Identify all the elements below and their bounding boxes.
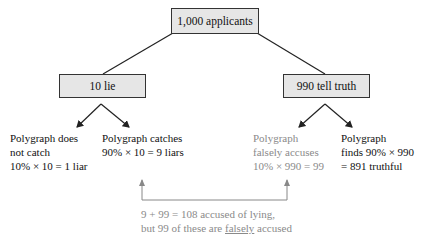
summary-prefix: but 99 of these are [141,222,225,234]
outcome-finds-truthful: Polygraph finds 90% × 990 = 891 truthful [341,131,414,173]
outcome-line: falsely accuses [253,145,324,159]
outcome-catches: Polygraph catches 90% × 10 = 9 liars [102,131,184,159]
summary-line-1: 9 + 99 = 108 accused of lying, [141,207,292,221]
arrow-falsely-accuses [299,104,325,127]
outcome-line: 10% × 990 = 99 [253,159,324,173]
root-node-box: 1,000 applicants [171,8,259,34]
root-to-left-line [103,33,173,74]
arrow-finds-truthful [325,104,352,127]
root-node-label: 1,000 applicants [177,15,252,27]
summary-suffix: accused [254,222,292,234]
outcome-not-catch: Polygraph does not catch 10% × 10 = 1 li… [10,131,87,173]
root-to-right-line [257,33,325,74]
summary-emphasis: falsely [225,222,254,234]
outcome-line: Polygraph does [10,131,87,145]
connector-lines [0,0,421,241]
outcome-line: finds 90% × 990 [341,145,414,159]
right-branch-label: 990 tell truth [297,80,356,92]
left-branch-box: 10 lie [59,74,146,98]
arrow-not-catch [77,104,101,127]
outcome-line: Polygraph [341,131,414,145]
summary-line-2: but 99 of these are falsely accused [141,221,292,235]
right-branch-box: 990 tell truth [283,74,370,98]
summary-note: 9 + 99 = 108 accused of lying, but 99 of… [141,207,292,235]
outcome-line: Polygraph catches [102,131,184,145]
left-branch-label: 10 lie [90,80,116,92]
outcome-falsely-accuses: Polygraph falsely accuses 10% × 990 = 99 [253,131,324,173]
outcome-line: not catch [10,145,87,159]
outcome-line: = 891 truthful [341,159,414,173]
arrow-catches [101,104,129,127]
outcome-line: Polygraph [253,131,324,145]
outcome-line: 90% × 10 = 9 liars [102,145,184,159]
outcome-line: 10% × 10 = 1 liar [10,159,87,173]
